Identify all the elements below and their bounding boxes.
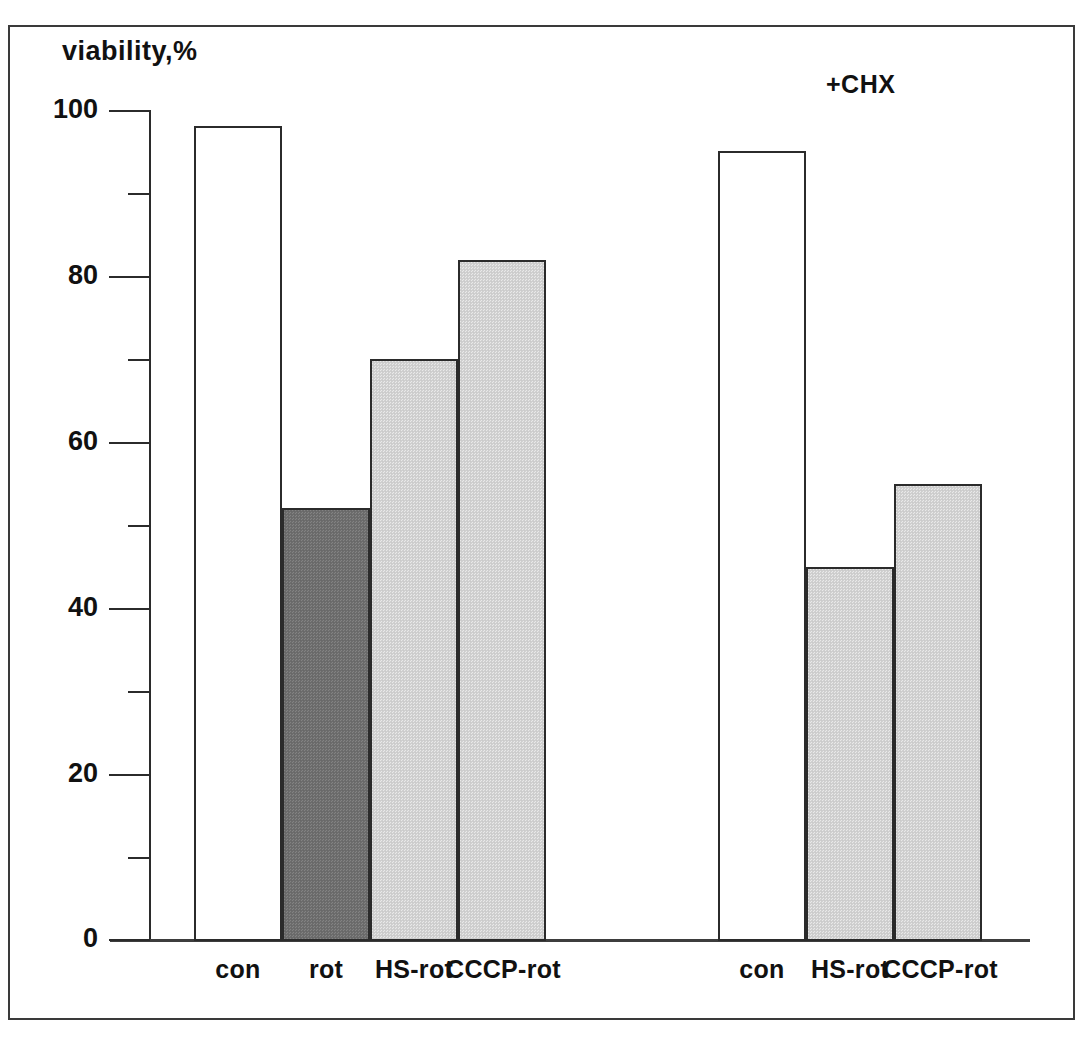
y-tick-label-60: 60	[18, 426, 98, 457]
bar-cccp-rot-group2[interactable]	[894, 484, 982, 941]
y-tick-80	[109, 276, 150, 278]
chx-annotation-label: +CHX	[826, 70, 895, 99]
y-tick-minor-70	[128, 359, 150, 361]
x-label-cccp-rot-group1: CCCP-rot	[441, 955, 566, 984]
y-axis-title: viability,%	[62, 36, 198, 67]
y-tick-label-100: 100	[18, 94, 98, 125]
y-tick-minor-10	[128, 857, 150, 859]
y-tick-20	[109, 774, 150, 776]
y-tick-0	[109, 939, 150, 941]
bar-chart: viability,% +CHX 100 80 60 40 20 0 con r…	[0, 0, 1083, 1041]
y-tick-minor-50	[128, 525, 150, 527]
y-tick-60	[109, 442, 150, 444]
y-tick-minor-30	[128, 691, 150, 693]
bar-cccp-rot-group1[interactable]	[458, 260, 546, 941]
y-tick-100	[109, 110, 150, 112]
bar-hs-rot-group1[interactable]	[370, 359, 458, 941]
y-tick-label-80: 80	[18, 260, 98, 291]
y-tick-minor-90	[128, 193, 150, 195]
y-tick-label-0: 0	[18, 923, 98, 954]
bar-hs-rot-group2[interactable]	[806, 567, 894, 941]
x-label-cccp-rot-group2: CCCP-rot	[878, 955, 1003, 984]
bar-con-group2[interactable]	[718, 151, 806, 941]
y-tick-label-20: 20	[18, 758, 98, 789]
y-tick-40	[109, 608, 150, 610]
bar-rot-group1[interactable]	[282, 508, 370, 941]
y-tick-label-40: 40	[18, 592, 98, 623]
bar-con-group1[interactable]	[194, 126, 282, 941]
